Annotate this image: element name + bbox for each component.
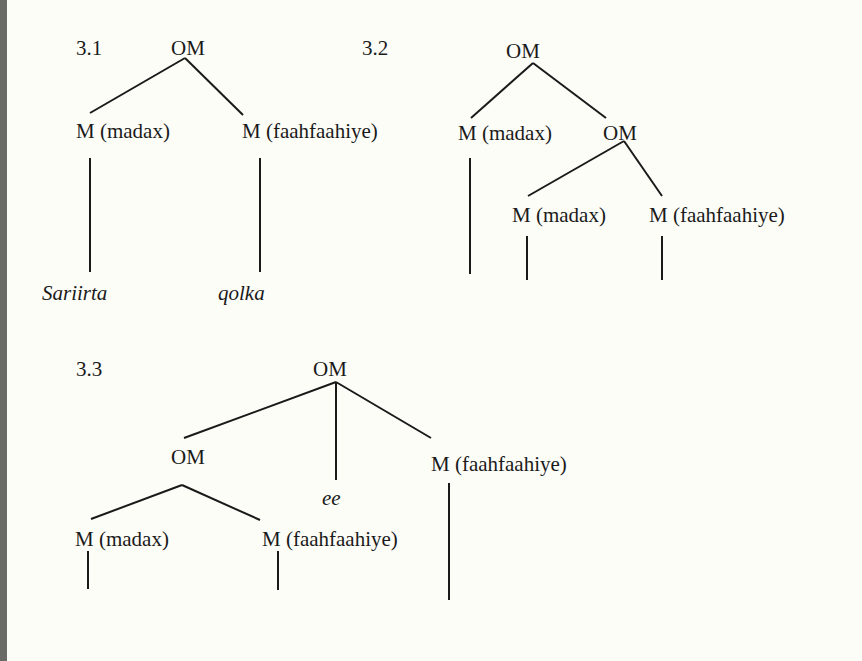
tree-3-2-root: OM <box>506 39 540 63</box>
tree-3-3-root: OM <box>313 357 347 381</box>
tree-edges <box>0 0 862 661</box>
tree-3-3-node-om: OM <box>171 445 205 469</box>
tree-3-3-sub-madax: M (madax) <box>75 527 169 551</box>
tree-3-3-label: 3.3 <box>76 357 102 381</box>
tree-3-2-node-madax: M (madax) <box>458 121 552 145</box>
tree-3-3-node-faahfaahiye: M (faahfaahiye) <box>431 452 567 476</box>
tree-3-2-sub-madax: M (madax) <box>512 203 606 227</box>
tree-3-1-leaf-qolka: qolka <box>218 281 265 305</box>
tree-3-1-label: 3.1 <box>76 36 102 60</box>
tree-3-1-node-madax: M (madax) <box>76 119 170 143</box>
tree-3-1-leaf-sariirta: Sariirta <box>42 281 107 305</box>
tree-3-1-node-faahfaahiye: M (faahfaahiye) <box>242 119 378 143</box>
tree-3-1-root: OM <box>171 36 205 60</box>
tree-3-2-label: 3.2 <box>362 36 388 60</box>
tree-3-3-sub-faahfaahiye: M (faahfaahiye) <box>262 527 398 551</box>
tree-3-2-sub-faahfaahiye: M (faahfaahiye) <box>649 203 785 227</box>
tree-3-2-node-om: OM <box>603 121 637 145</box>
tree-3-3-node-ee: ee <box>322 486 341 510</box>
